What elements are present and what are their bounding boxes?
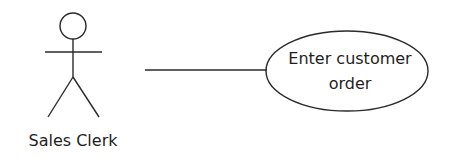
use-case-ellipse [266, 31, 428, 111]
actor-label: Sales Clerk [29, 131, 119, 150]
actor-right-leg [73, 77, 99, 117]
actor-sales-clerk: Sales Clerk [29, 13, 119, 150]
actor-left-leg [48, 77, 73, 117]
use-case-label-line1: Enter customer [288, 49, 412, 68]
use-case-enter-customer-order: Enter customer order [266, 31, 428, 111]
use-case-label-line2: order [329, 74, 372, 93]
use-case-diagram: Sales Clerk Enter customer order [0, 0, 470, 158]
actor-head [60, 13, 86, 39]
stick-figure-icon [45, 13, 102, 117]
